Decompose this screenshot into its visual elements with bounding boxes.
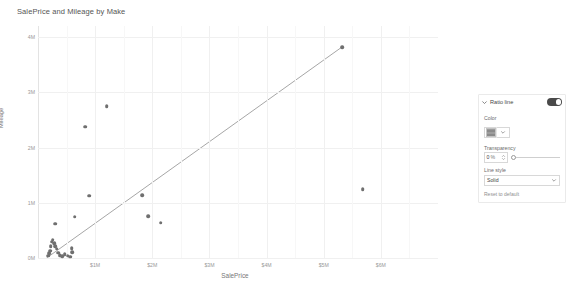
scatter-point[interactable] bbox=[159, 221, 163, 225]
toggle-knob bbox=[556, 99, 562, 105]
gridline-minor bbox=[295, 26, 296, 258]
line-style-value: Solid bbox=[487, 177, 550, 183]
transparency-unit: % bbox=[490, 155, 495, 160]
gridline-minor bbox=[124, 26, 125, 258]
gridline-vertical bbox=[152, 26, 153, 258]
ratio-line-section-title: Ratio line bbox=[490, 99, 545, 105]
line-style-dropdown[interactable]: Solid bbox=[484, 175, 560, 186]
color-swatch[interactable] bbox=[486, 128, 496, 137]
scatter-point[interactable] bbox=[105, 104, 109, 108]
scatter-point[interactable] bbox=[340, 45, 344, 49]
y-axis-tick-label: 3M bbox=[28, 89, 35, 95]
x-axis-title: SalePrice bbox=[0, 272, 470, 279]
gridline-horizontal bbox=[38, 258, 438, 259]
gridline-minor bbox=[352, 26, 353, 258]
x-axis-tick-label: $5M bbox=[319, 262, 329, 268]
x-axis-tick-label: $1M bbox=[90, 262, 100, 268]
powerbi-scatter-report: SalePrice and Mileage by Make 0M1M2M3M4M… bbox=[0, 0, 587, 287]
transparency-value: 0 bbox=[487, 155, 490, 160]
scatter-point[interactable] bbox=[88, 194, 92, 198]
line-style-field-label: Line style bbox=[484, 167, 560, 173]
scatter-point[interactable] bbox=[70, 246, 74, 250]
y-axis-title: Mileage bbox=[0, 108, 4, 128]
chevron-down-icon[interactable] bbox=[481, 99, 488, 106]
x-axis-tick-label: $2M bbox=[147, 262, 157, 268]
scatter-point[interactable] bbox=[361, 187, 365, 191]
gridline-vertical bbox=[95, 26, 96, 258]
format-pane-body: Color Transparency 0 % bbox=[479, 109, 565, 202]
gridline-minor bbox=[238, 26, 239, 258]
color-picker[interactable] bbox=[484, 127, 510, 138]
y-axis-tick-label: 2M bbox=[28, 145, 35, 151]
x-axis-tick-label: $3M bbox=[204, 262, 214, 268]
y-axis-tick-label: 1M bbox=[28, 200, 35, 206]
chevron-down-icon[interactable] bbox=[496, 127, 509, 138]
y-axis-tick-labels: 0M1M2M3M4M bbox=[14, 26, 35, 258]
ratio-line-section-header[interactable]: Ratio line bbox=[479, 95, 565, 109]
y-axis-tick-label: 0M bbox=[28, 255, 35, 261]
chevron-down-icon[interactable] bbox=[550, 177, 557, 184]
transparency-field-label: Transparency bbox=[484, 145, 560, 151]
scatter-point[interactable] bbox=[70, 250, 74, 254]
scatter-point[interactable] bbox=[84, 125, 88, 129]
slider-rail bbox=[511, 157, 560, 158]
color-field-label: Color bbox=[484, 115, 560, 121]
gridline-vertical bbox=[381, 26, 382, 258]
gridline-vertical bbox=[209, 26, 210, 258]
reset-to-default-link[interactable]: Reset to default bbox=[484, 191, 560, 197]
scatter-point[interactable] bbox=[146, 214, 150, 218]
scatter-point[interactable] bbox=[68, 255, 72, 259]
gridline-minor bbox=[409, 26, 410, 258]
chart-title: SalePrice and Mileage by Make bbox=[17, 7, 125, 16]
scatter-point[interactable] bbox=[73, 215, 77, 219]
scatter-point[interactable] bbox=[48, 249, 52, 253]
y-axis-tick-label: 4M bbox=[28, 34, 35, 40]
scatter-chart-visual[interactable]: SalePrice and Mileage by Make 0M1M2M3M4M… bbox=[0, 0, 470, 287]
gridline-minor bbox=[67, 26, 68, 258]
x-axis-tick-label: $4M bbox=[262, 262, 272, 268]
gridline-minor bbox=[181, 26, 182, 258]
slider-thumb[interactable] bbox=[511, 155, 516, 160]
ratio-line-toggle[interactable] bbox=[547, 98, 562, 106]
format-pane-ratio-line[interactable]: Ratio line Color Transparency 0 % bbox=[478, 94, 566, 203]
x-axis-tick-labels: $1M$2M$3M$4M$5M$6M bbox=[38, 262, 438, 272]
gridline-vertical bbox=[324, 26, 325, 258]
scatter-point[interactable] bbox=[140, 193, 144, 197]
scatter-point[interactable] bbox=[55, 247, 59, 251]
stepper-arrows-icon[interactable] bbox=[501, 154, 506, 161]
scatter-point[interactable] bbox=[53, 222, 57, 226]
transparency-input[interactable]: 0 % bbox=[484, 152, 508, 163]
transparency-slider[interactable] bbox=[511, 152, 560, 163]
gridline-vertical bbox=[267, 26, 268, 258]
x-axis-tick-label: $6M bbox=[376, 262, 386, 268]
transparency-control[interactable]: 0 % bbox=[484, 152, 560, 163]
plot-area bbox=[38, 26, 438, 258]
